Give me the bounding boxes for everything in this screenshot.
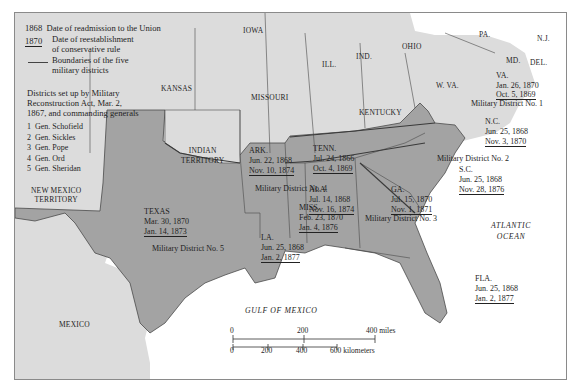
scale-km-400: 400 — [296, 346, 307, 356]
label-atlantic-ocean: ATLANTIC OCEAN — [491, 220, 531, 242]
districts-heading-line2: Reconstruction Act, Mar. 2, — [27, 98, 139, 108]
label-indian-territory: INDIAN TERRITORY — [181, 146, 224, 166]
conservative-date: Jan. 4, 1876 — [299, 223, 338, 233]
state-name: TENN. — [313, 144, 354, 154]
state-va: VA. Jan. 26, 1870 Oct. 5, 1869 — [496, 71, 539, 100]
districts-heading-line1: Districts set up by Military — [27, 88, 139, 98]
scale-km-200: 200 — [261, 346, 272, 356]
label-iowa: IOWA — [243, 26, 263, 36]
district-label-5: Military District No. 5 — [152, 244, 224, 254]
state-ga: GA. Jul. 15, 1870 Nov. 1, 1871 — [391, 185, 432, 215]
conservative-date: Nov. 3, 1870 — [485, 137, 526, 147]
conservative-date: Jan. 14, 1873 — [144, 227, 187, 237]
state-la: LA. Jun. 25, 1868 Jan. 2, 1877 — [261, 233, 304, 263]
state-name: N.C. — [485, 117, 528, 127]
atlantic-line2: OCEAN — [491, 231, 531, 242]
state-name: FLA. — [475, 274, 518, 284]
readmission-date: Jun. 25, 1868 — [475, 284, 518, 294]
label-ind: IND. — [356, 52, 372, 62]
state-nc: N.C. Jun. 25, 1868 Nov. 3, 1870 — [485, 117, 528, 147]
legend-readmission-sample: 1868 — [25, 23, 42, 33]
label-md: MD. — [506, 56, 521, 66]
label-kentucky: KENTUCKY — [359, 108, 402, 118]
state-name: S.C. — [459, 165, 504, 175]
legend-readmission-text: Date of readmission to the Union — [46, 23, 160, 33]
indian-territory-line2: TERRITORY — [181, 156, 224, 166]
legend-conservative-text: Date of reestablishment of conservative … — [52, 34, 134, 54]
state-name: MISS. — [299, 203, 343, 213]
legend-boundary-text: Boundaries of the five military district… — [52, 55, 129, 75]
legend-conservative-sample: 1870 — [25, 36, 42, 47]
general-item: 5 Gen. Sheridan — [27, 164, 83, 175]
readmission-date: Jun. 25, 1868 — [459, 175, 504, 185]
label-pa: PA. — [479, 30, 490, 40]
indian-territory-line1: INDIAN — [181, 146, 224, 156]
label-ohio: OHIO — [402, 42, 422, 52]
state-name: TEXAS — [144, 207, 189, 217]
scale-km-600: 600 kilometers — [330, 346, 375, 356]
atlantic-line1: ATLANTIC — [491, 220, 531, 231]
readmission-date: Jun. 25, 1868 — [261, 243, 304, 253]
general-item: 3 Gen. Pope — [27, 143, 83, 154]
conservative-date: Jan. 2, 1877 — [475, 294, 514, 304]
legend-districts-heading: Districts set up by Military Reconstruct… — [27, 88, 139, 118]
scale-miles-0: 0 — [230, 326, 234, 336]
readmission-date: Feb. 23, 1870 — [299, 213, 343, 223]
general-item: 4 Gen. Ord — [27, 154, 83, 165]
district-label-1: Military District No. 1 — [471, 99, 543, 109]
map-frame: 1868 Date of readmission to the Union 18… — [14, 12, 567, 380]
scale-km-0: 0 — [230, 346, 234, 356]
conservative-date: Oct. 4, 1869 — [313, 164, 353, 174]
district-label-3: Military District No. 3 — [365, 214, 437, 224]
state-name: GA. — [391, 185, 432, 195]
readmission-date: Jun. 25, 1868 — [485, 127, 528, 137]
label-ill: ILL. — [322, 60, 336, 70]
state-name: ALA. — [309, 185, 354, 195]
new-mexico-line1: NEW MEXICO — [31, 186, 81, 195]
label-gulf-of-mexico: GULF OF MEXICO — [245, 306, 318, 316]
readmission-date: Jul. 24, 1866 — [313, 154, 354, 164]
general-item: 1 Gen. Schofield — [27, 122, 83, 133]
state-name: ARK. — [249, 146, 294, 156]
conservative-date: Nov. 10, 1874 — [249, 166, 294, 176]
district-label-2: Military District No. 2 — [437, 154, 509, 164]
readmission-date: Jan. 26, 1870 — [496, 81, 539, 91]
state-miss: MISS. Feb. 23, 1870 Jan. 4, 1876 — [299, 203, 343, 233]
readmission-date: Jun. 22, 1868 — [249, 156, 294, 166]
readmission-date: Jul. 15, 1870 — [391, 195, 432, 205]
label-kansas: KANSAS — [161, 84, 192, 94]
scale-miles-400: 400 miles — [366, 326, 395, 336]
legend-readmission: 1868 Date of readmission to the Union — [25, 23, 161, 33]
readmission-date: Mar. 30, 1870 — [144, 217, 189, 227]
legend-boundary-line1: Boundaries of the five — [52, 55, 129, 65]
districts-heading-line3: 1867, and commanding generals — [27, 108, 139, 118]
general-item: 2 Gen. Sickles — [27, 133, 83, 144]
state-sc: S.C. Jun. 25, 1868 Nov. 28, 1876 — [459, 165, 504, 195]
label-mexico: MEXICO — [59, 320, 90, 330]
conservative-date: Nov. 28, 1876 — [459, 185, 504, 195]
label-del: DEL. — [530, 58, 547, 68]
legend-conservative-line2: of conservative rule — [52, 44, 134, 54]
label-nj: N.J. — [537, 34, 550, 44]
legend-conservative-line1: Date of reestablishment — [52, 34, 134, 44]
state-tenn: TENN. Jul. 24, 1866 Oct. 4, 1869 — [313, 144, 354, 174]
legend-conservative-underlined: 1870 — [25, 37, 42, 47]
legend-generals-list: 1 Gen. Schofield 2 Gen. Sickles 3 Gen. P… — [27, 122, 83, 175]
label-new-mexico: NEW MEXICO TERRITORY — [31, 186, 81, 204]
state-name: LA. — [261, 233, 304, 243]
new-mexico-line2: TERRITORY — [31, 195, 81, 204]
label-missouri: MISSOURI — [251, 93, 288, 103]
scale-miles-200: 200 — [297, 326, 308, 336]
label-wva: W. VA. — [436, 81, 459, 91]
conservative-date: Jan. 2, 1877 — [261, 253, 300, 263]
legend-boundary-line2: military districts — [52, 65, 129, 75]
state-name: VA. — [496, 71, 539, 81]
state-ark: ARK. Jun. 22, 1868 Nov. 10, 1874 — [249, 146, 294, 176]
state-texas: TEXAS Mar. 30, 1870 Jan. 14, 1873 — [144, 207, 189, 237]
state-fla: FLA. Jun. 25, 1868 Jan. 2, 1877 — [475, 274, 518, 304]
